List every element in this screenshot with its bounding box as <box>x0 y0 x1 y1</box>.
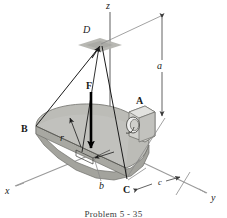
axis-label-y: y <box>211 193 215 203</box>
point-label-A: A <box>136 96 143 106</box>
bearing-support-A <box>126 106 155 142</box>
axis-label-z: z <box>106 1 110 11</box>
figure-drawing <box>0 0 227 218</box>
force-label-F: F <box>86 81 92 91</box>
figure-caption: Problem 5 - 35 <box>0 209 227 218</box>
point-label-B: B <box>21 124 28 134</box>
dimension-label-c: c <box>158 178 162 187</box>
point-label-D: D <box>83 25 90 35</box>
statics-figure: z x y D A B C a b c r F Problem 5 - 35 <box>0 0 227 218</box>
dimension-label-r: r <box>60 133 64 143</box>
axis-arrow-tips <box>16 183 206 193</box>
dimension-label-a: a <box>157 61 162 71</box>
apex-patch-D <box>78 38 122 52</box>
axis-label-x: x <box>5 186 9 196</box>
point-label-C: C <box>123 185 130 195</box>
dimension-label-b: b <box>99 181 104 191</box>
